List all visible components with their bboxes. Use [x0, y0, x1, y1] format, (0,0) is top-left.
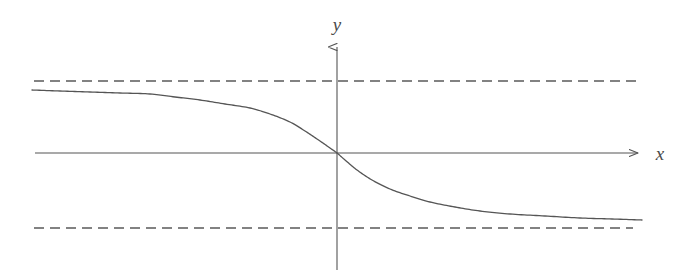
y-axis-label: y — [331, 14, 342, 35]
x-axis-label: x — [655, 143, 665, 164]
asymptote-sigmoid-plot: x y — [0, 0, 697, 279]
figure-canvas: x y — [0, 0, 697, 279]
